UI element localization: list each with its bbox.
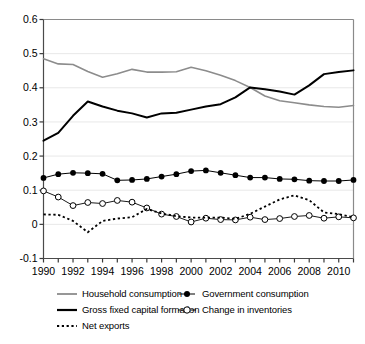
data-point [306, 213, 312, 219]
data-point [247, 175, 253, 181]
series-gross-fixed-capital-formation [44, 70, 354, 140]
data-point [292, 176, 298, 182]
data-point [203, 168, 209, 174]
data-point [41, 188, 47, 194]
y-tick-label: 0.2 [23, 150, 38, 162]
legend-marker-household-consumption [56, 288, 78, 300]
x-tick-label: 2006 [268, 265, 292, 277]
data-point [188, 219, 194, 225]
legend-marker-net-exports [56, 320, 78, 332]
data-point [351, 177, 357, 183]
data-point [55, 194, 61, 200]
series-government-consumption [41, 168, 357, 184]
y-tick-label: 0 [32, 218, 38, 230]
data-point [114, 198, 120, 204]
data-point [336, 178, 342, 184]
chart-figure: -0.100.10.20.30.40.50.619901992199419961… [0, 0, 365, 344]
data-point [70, 203, 76, 209]
x-tick-label: 1996 [120, 265, 144, 277]
data-point [306, 178, 312, 184]
data-point [55, 171, 61, 177]
legend-label-government-consumption: Government consumption [202, 288, 309, 300]
data-point [129, 199, 135, 205]
x-tick-label: 1998 [150, 265, 174, 277]
series-change-in-inventories [41, 188, 357, 225]
series-household-consumption [44, 59, 354, 107]
x-tick-label: 2000 [179, 265, 203, 277]
gridlines [44, 20, 354, 225]
data-point [100, 201, 106, 207]
axes [44, 20, 354, 259]
y-tick-label: 0.6 [23, 13, 38, 25]
data-point [41, 175, 47, 181]
data-point [188, 168, 194, 174]
data-point [85, 170, 91, 176]
data-point [277, 176, 283, 182]
legend-marker-government-consumption [176, 288, 198, 300]
data-point [233, 172, 239, 178]
x-tick-label: 2010 [327, 265, 351, 277]
legend-entry-change-in-inventories: Change in inventories [172, 304, 292, 316]
x-tick-label: 1994 [91, 265, 115, 277]
x-tick-label: 1992 [61, 265, 85, 277]
legend-entry-government-consumption: Government consumption [172, 288, 309, 300]
x-tick-label: 2002 [209, 265, 233, 277]
x-axis-ticks: 1990199219941996199820002002200420062008… [32, 259, 354, 277]
legend-label-change-in-inventories: Change in inventories [202, 304, 292, 316]
legend-row: Household consumption Government consump… [0, 286, 365, 302]
legend-row: Net exports [0, 318, 365, 334]
legend-label-net-exports: Net exports [82, 320, 129, 332]
legend-entry-net-exports: Net exports [0, 320, 172, 332]
data-point [262, 175, 268, 181]
legend-marker-gross-fixed-capital-formation [56, 304, 78, 316]
x-tick-label: 1990 [32, 265, 56, 277]
chart-legend: Household consumption Government consump… [0, 286, 365, 334]
data-point [144, 176, 150, 182]
legend-label-household-consumption: Household consumption [82, 288, 182, 300]
data-point [114, 177, 120, 183]
data-point [100, 171, 106, 177]
y-tick-label: 0.5 [23, 47, 38, 59]
data-point [321, 215, 327, 221]
legend-marker-change-in-inventories [176, 304, 198, 316]
y-axis-ticks: -0.100.10.20.30.40.50.6 [19, 13, 43, 264]
y-tick-label: 0.1 [23, 184, 38, 196]
data-point [292, 214, 298, 220]
y-tick-label: 0.3 [23, 116, 38, 128]
data-point [173, 171, 179, 177]
data-point [277, 216, 283, 222]
data-point [321, 178, 327, 184]
data-point [70, 170, 76, 176]
x-tick-label: 2008 [298, 265, 322, 277]
y-tick-label: -0.1 [19, 252, 37, 264]
y-tick-label: 0.4 [23, 81, 38, 93]
data-point [159, 174, 165, 180]
legend-row: Gross fixed capital formation Change in … [0, 302, 365, 318]
data-point [129, 177, 135, 183]
x-tick-label: 2004 [238, 265, 262, 277]
legend-entry-household-consumption: Household consumption [0, 288, 172, 300]
data-point [262, 217, 268, 223]
data-point [351, 215, 357, 221]
legend-entry-gross-fixed-capital-formation: Gross fixed capital formation [0, 304, 172, 316]
data-point [85, 200, 91, 206]
data-point [218, 170, 224, 176]
